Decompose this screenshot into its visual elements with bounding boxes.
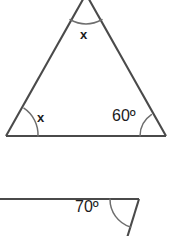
bottom-left-angle-arc [24,108,38,136]
exterior-angle-arc [110,199,130,227]
exterior-angle-label: 70º [75,199,99,215]
exterior-angle-shape [0,199,139,236]
apex-angle-label: x [80,28,87,41]
triangle-shape [6,0,166,136]
bottom-right-angle-arc [140,115,151,136]
slanted-ray [127,199,139,236]
geometry-figure-canvas: x x 60º 70º [0,0,169,236]
bottom-right-angle-label: 60º [112,108,136,124]
bottom-left-angle-label: x [37,111,44,124]
triangle-left-side [6,0,86,136]
apex-angle-arc [70,20,102,25]
